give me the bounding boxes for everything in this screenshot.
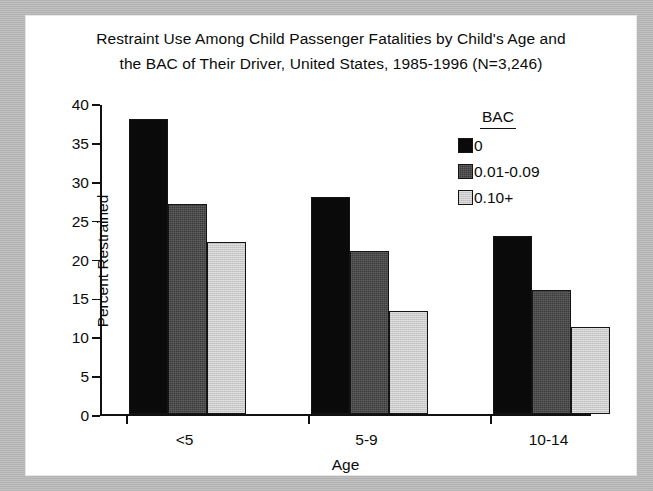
- y-tick-label: 35: [72, 135, 89, 153]
- y-tick-label: 10: [72, 329, 89, 347]
- y-tick-label: 30: [72, 174, 89, 192]
- bar: [311, 197, 350, 415]
- legend-label: 0.10+: [474, 189, 513, 207]
- legend-swatch: [458, 164, 473, 179]
- y-tick-mark: [92, 415, 100, 417]
- bar: [571, 327, 610, 414]
- y-tick-mark: [92, 376, 100, 378]
- x-tick-label: 5-9: [355, 431, 377, 449]
- chart-title-line-2: the BAC of Their Driver, United States, …: [26, 51, 636, 76]
- bar: [532, 290, 571, 414]
- y-tick-mark: [92, 299, 100, 301]
- y-tick-label: 15: [72, 290, 89, 308]
- chart-title: Restraint Use Among Child Passenger Fata…: [26, 26, 636, 76]
- y-tick-mark: [92, 337, 100, 339]
- y-tick-mark: [92, 260, 100, 262]
- legend-title: BAC: [480, 108, 516, 129]
- legend-swatch: [458, 190, 473, 205]
- y-tick-mark: [92, 221, 100, 223]
- y-tick-mark: [92, 104, 100, 106]
- x-tick-mark: [308, 416, 310, 424]
- chart-title-line-1: Restraint Use Among Child Passenger Fata…: [26, 26, 636, 51]
- legend: BAC 00.01-0.090.10+: [458, 108, 618, 207]
- legend-label: 0.01-0.09: [474, 163, 540, 181]
- legend-item: 0.01-0.09: [458, 162, 618, 181]
- figure-card: Restraint Use Among Child Passenger Fata…: [26, 16, 636, 475]
- y-tick-label: 40: [72, 96, 89, 114]
- x-tick-label: 10-14: [529, 431, 569, 449]
- bar: [350, 251, 389, 414]
- bar: [389, 311, 428, 414]
- x-axis-line: [100, 414, 591, 416]
- bar: [493, 236, 532, 415]
- legend-item: 0: [458, 136, 618, 155]
- x-tick-mark: [490, 416, 492, 424]
- y-tick-mark: [92, 182, 100, 184]
- x-tick-mark: [126, 416, 128, 424]
- y-tick-label: 20: [72, 252, 89, 270]
- y-tick-label: 5: [80, 368, 89, 386]
- y-tick-label: 0: [80, 407, 89, 425]
- bar: [168, 204, 207, 414]
- y-tick-mark: [92, 143, 100, 145]
- legend-rows: 00.01-0.090.10+: [458, 136, 618, 207]
- bar: [129, 119, 168, 414]
- bar: [207, 242, 246, 415]
- y-tick-label: 25: [72, 213, 89, 231]
- x-axis-title: Age: [100, 456, 591, 474]
- legend-label: 0: [474, 137, 483, 155]
- legend-item: 0.10+: [458, 188, 618, 207]
- x-tick-label: <5: [176, 431, 194, 449]
- scanned-page-frame: Restraint Use Among Child Passenger Fata…: [0, 0, 653, 491]
- legend-swatch: [458, 138, 473, 153]
